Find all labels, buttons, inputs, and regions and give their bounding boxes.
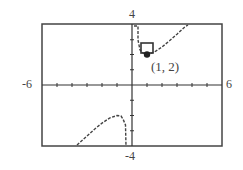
point-marker-min	[144, 51, 150, 57]
xmax-label: 6	[226, 78, 232, 90]
curve-right-branch	[134, 25, 188, 55]
ymin-label: -4	[125, 150, 135, 162]
point-annotation-label: (1, 2)	[151, 60, 179, 73]
ymax-label: 4	[129, 8, 135, 20]
graph-canvas	[0, 0, 243, 170]
xmin-label: -6	[22, 78, 32, 90]
curve-left-branch	[77, 116, 126, 147]
